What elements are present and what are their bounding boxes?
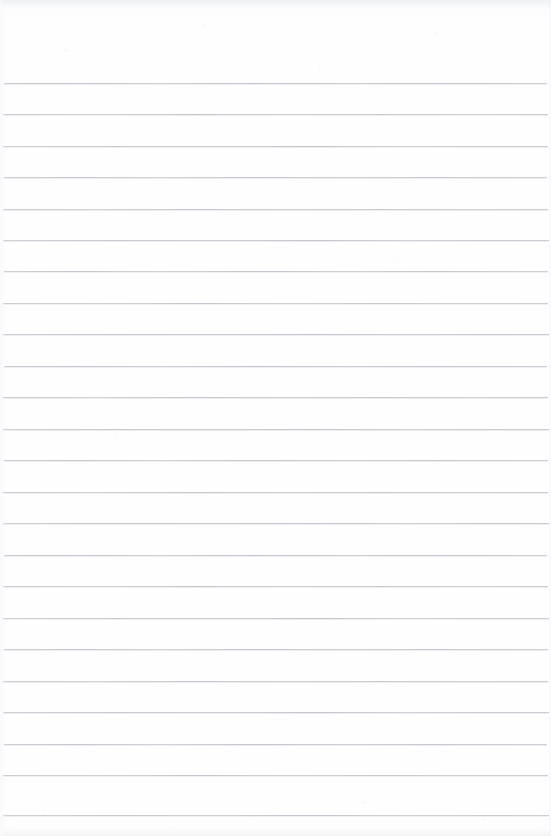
page-writing-area[interactable] (4, 83, 548, 818)
lined-paper-page (0, 0, 551, 836)
